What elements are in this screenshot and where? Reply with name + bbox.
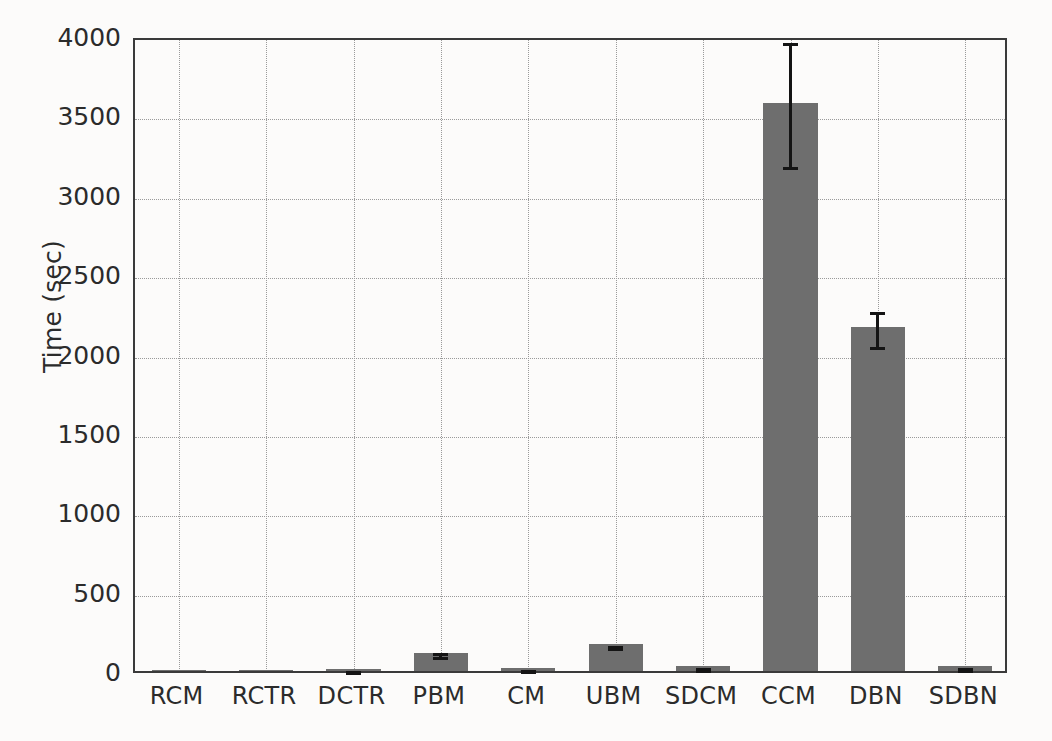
gridline-vertical xyxy=(616,40,617,671)
error-cap-upper xyxy=(433,653,448,656)
y-tick-label: 1500 xyxy=(1,422,121,447)
bar-ccm[interactable] xyxy=(763,103,817,671)
bar-rcm[interactable] xyxy=(152,670,206,672)
bar-chart-figure: Time (sec) 05001000150020002500300035004… xyxy=(0,0,1052,741)
y-tick-label: 2000 xyxy=(1,343,121,368)
gridline-vertical xyxy=(965,40,966,671)
x-tick-label-cm: CM xyxy=(507,682,545,710)
x-tick-label-rcm: RCM xyxy=(150,682,204,710)
plot-area xyxy=(133,38,1007,673)
gridline-vertical xyxy=(266,40,267,671)
gridline-vertical xyxy=(179,40,180,671)
gridline-vertical xyxy=(528,40,529,671)
bar-rctr[interactable] xyxy=(239,670,293,672)
gridline-vertical xyxy=(354,40,355,671)
x-tick-label-sdbn: SDBN xyxy=(929,682,998,710)
y-tick-label: 3000 xyxy=(1,184,121,209)
x-tick-label-dctr: DCTR xyxy=(318,682,386,710)
x-tick-label-ubm: UBM xyxy=(586,682,642,710)
error-bar-ccm xyxy=(789,45,792,169)
x-tick-label-rctr: RCTR xyxy=(232,682,297,710)
error-cap-upper xyxy=(783,43,798,46)
error-bar-dbn xyxy=(876,314,879,349)
y-tick-label: 500 xyxy=(1,581,121,606)
error-cap-upper xyxy=(870,312,885,315)
error-cap-lower xyxy=(346,672,361,675)
error-cap-lower xyxy=(521,671,536,674)
error-cap-lower xyxy=(608,648,623,651)
y-tick-label: 2500 xyxy=(1,263,121,288)
x-tick-label-sdcm: SDCM xyxy=(665,682,737,710)
error-cap-lower xyxy=(696,670,711,673)
error-cap-lower xyxy=(783,167,798,170)
gridline-vertical xyxy=(703,40,704,671)
error-cap-lower xyxy=(958,670,973,673)
plot-inner xyxy=(135,40,1005,671)
y-tick-label: 1000 xyxy=(1,501,121,526)
y-tick-label: 4000 xyxy=(1,25,121,50)
x-tick-label-ccm: CCM xyxy=(761,682,816,710)
y-tick-label: 3500 xyxy=(1,104,121,129)
y-tick-label: 0 xyxy=(1,660,121,685)
bar-dbn[interactable] xyxy=(851,327,905,671)
x-tick-label-dbn: DBN xyxy=(849,682,903,710)
gridline-vertical xyxy=(441,40,442,671)
x-tick-label-pbm: PBM xyxy=(413,682,466,710)
error-cap-lower xyxy=(433,657,448,660)
error-cap-lower xyxy=(870,347,885,350)
